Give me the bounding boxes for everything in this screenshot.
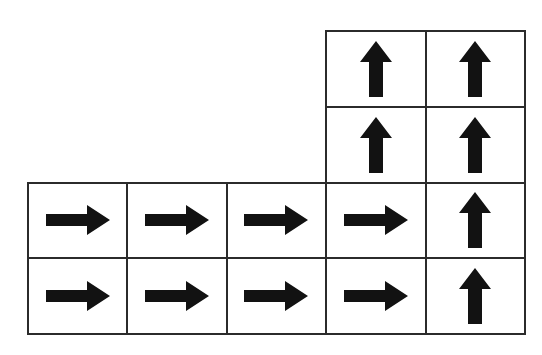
arrow-up-icon	[360, 41, 392, 97]
grid-cell-r4c2[interactable]	[126, 257, 227, 335]
grid-cell-r3c3[interactable]	[226, 182, 327, 260]
arrow-up-icon	[459, 268, 491, 324]
grid-cell-r4c4[interactable]	[325, 257, 426, 335]
arrow-right-icon	[46, 205, 110, 235]
arrow-right-icon	[344, 281, 408, 311]
grid-cell-r4c1[interactable]	[27, 257, 128, 335]
arrow-right-icon	[145, 205, 209, 235]
grid-cell-r3c2[interactable]	[126, 182, 227, 260]
arrow-right-icon	[244, 205, 308, 235]
grid-cell-r1c4[interactable]	[325, 30, 426, 108]
grid-cell-r3c5[interactable]	[425, 182, 526, 260]
gridworld-policy-figure	[0, 0, 542, 355]
arrow-up-icon	[459, 41, 491, 97]
grid-cell-r3c1[interactable]	[27, 182, 128, 260]
grid-cell-r1c5[interactable]	[425, 30, 526, 108]
grid-cell-r2c5[interactable]	[425, 106, 526, 184]
arrow-right-icon	[46, 281, 110, 311]
arrow-up-icon	[459, 192, 491, 248]
grid-cell-r3c4[interactable]	[325, 182, 426, 260]
arrow-up-icon	[459, 117, 491, 173]
grid-cell-r4c5[interactable]	[425, 257, 526, 335]
arrow-right-icon	[244, 281, 308, 311]
arrow-right-icon	[145, 281, 209, 311]
grid-cell-r2c4[interactable]	[325, 106, 426, 184]
arrow-up-icon	[360, 117, 392, 173]
grid-cell-r4c3[interactable]	[226, 257, 327, 335]
arrow-right-icon	[344, 205, 408, 235]
